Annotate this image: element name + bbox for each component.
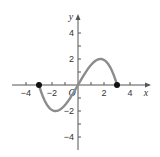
x-axis-label: x [143, 87, 149, 98]
x-tick-label: −2 [47, 88, 57, 98]
function-graph: −4 −2 2 4 x 4 2 −2 −4 y O [0, 0, 160, 157]
x-tick-label: 4 [127, 88, 132, 98]
y-axis-label: y [68, 11, 74, 22]
x-tick-label: 2 [101, 88, 106, 98]
endpoint-left [36, 82, 42, 88]
y-axis-arrow-icon [76, 14, 81, 20]
y-tick-label: −2 [64, 106, 74, 116]
endpoint-right [114, 82, 120, 88]
y-tick-label: −4 [64, 132, 74, 142]
y-tick-label: 4 [69, 28, 74, 38]
x-tick-label: −4 [21, 88, 31, 98]
y-tick-label: 2 [69, 54, 74, 64]
